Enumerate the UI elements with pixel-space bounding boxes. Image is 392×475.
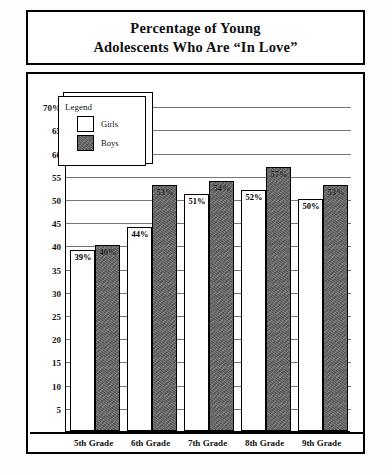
bar-value-label: 54% xyxy=(210,184,235,193)
bar-boys-9th-grade[interactable]: 53% xyxy=(323,185,348,431)
bar-girls-5th-grade[interactable]: 39% xyxy=(70,250,95,431)
y-axis-tick-label: 50 xyxy=(27,196,61,206)
chart-page: Percentage of Young Adolescents Who Are … xyxy=(0,0,392,475)
bar-boys-5th-grade[interactable]: 40% xyxy=(95,245,120,431)
bar-value-label: 39% xyxy=(71,253,96,262)
y-axis-tick-label: 45 xyxy=(27,219,61,229)
legend-label-boys: Boys xyxy=(101,138,118,148)
y-axis-tick-label: 40 xyxy=(27,242,61,252)
bar-girls-6th-grade[interactable]: 44% xyxy=(127,227,152,431)
category-axis: 5th Grade6th Grade7th Grade8th Grade9th … xyxy=(30,432,363,454)
bar-girls-9th-grade[interactable]: 50% xyxy=(298,199,323,431)
y-axis-tick-label: 55 xyxy=(27,173,61,183)
bar-value-label: 44% xyxy=(128,230,153,239)
bar-group: 51%54% xyxy=(184,97,234,431)
y-axis-tick-label: 60 xyxy=(27,150,61,160)
y-axis-tick-label: 30 xyxy=(27,289,61,299)
bar-group: 50%53% xyxy=(298,97,348,431)
chart-title-box: Percentage of Young Adolescents Who Are … xyxy=(26,10,365,65)
legend-heading: Legend xyxy=(65,102,139,112)
bar-group: 52%57% xyxy=(241,97,291,431)
bar-girls-8th-grade[interactable]: 52% xyxy=(241,190,266,431)
y-axis-tick-label: 65 xyxy=(27,126,61,136)
y-axis-tick-label: 25 xyxy=(27,312,61,322)
legend-item-girls: Girls xyxy=(77,116,139,132)
y-axis-tick-label: 15 xyxy=(27,358,61,368)
bar-girls-7th-grade[interactable]: 51% xyxy=(184,194,209,431)
bar-value-label: 53% xyxy=(153,188,178,197)
bar-value-label: 51% xyxy=(185,197,210,206)
page-title-line-1: Percentage of Young xyxy=(130,19,260,38)
bar-boys-6th-grade[interactable]: 53% xyxy=(152,185,177,431)
bar-value-label: 50% xyxy=(299,202,324,211)
bar-value-label: 40% xyxy=(96,248,121,257)
white-square-swatch-icon xyxy=(77,116,94,132)
legend-label-girls: Girls xyxy=(101,119,118,129)
bar-value-label: 52% xyxy=(242,193,267,202)
shaded-square-swatch-icon xyxy=(77,135,94,151)
bar-boys-8th-grade[interactable]: 57% xyxy=(266,167,291,431)
y-axis-tick-label: 5 xyxy=(27,405,61,415)
bar-value-label: 57% xyxy=(267,170,292,179)
page-title-line-2: Adolescents Who Are “In Love” xyxy=(93,38,297,57)
y-axis-tick-label: 10 xyxy=(27,382,61,392)
bar-value-label: 53% xyxy=(324,188,349,197)
x-axis-category-label: 9th Grade xyxy=(287,438,357,448)
y-axis-tick-label: 35 xyxy=(27,266,61,276)
bar-boys-7th-grade[interactable]: 54% xyxy=(209,181,234,432)
y-axis-tick-label: 70% xyxy=(27,103,61,113)
chart-legend: Legend Girls Boys xyxy=(58,96,146,166)
legend-item-boys: Boys xyxy=(77,135,139,151)
y-axis-tick-label: 20 xyxy=(27,335,61,345)
